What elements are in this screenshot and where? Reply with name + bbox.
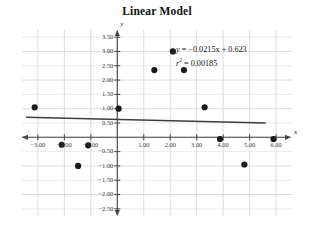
y-tick-label: 3.50 — [87, 33, 113, 40]
y-tick-label: −0.50 — [87, 147, 113, 154]
r-squared-line: r2 = 0.00185 — [176, 55, 247, 69]
y-tick-label: 3.00 — [87, 47, 113, 54]
equation-body: = −0.0215x + 0.623 — [180, 45, 247, 54]
linear-model-figure: Linear Model −3.00−2.00−1.001.002.003.00… — [0, 0, 314, 234]
x-tick-label: 4.00 — [209, 141, 237, 148]
x-tick-label: 2.00 — [156, 141, 184, 148]
equation-line: y = −0.0215x + 0.623 — [176, 44, 247, 55]
x-tick-label: −3.00 — [24, 141, 52, 148]
plot-area: −3.00−2.00−1.001.002.003.004.005.006.003… — [22, 30, 292, 216]
x-tick-label: −2.00 — [50, 141, 78, 148]
x-tick-label: 5.00 — [236, 141, 264, 148]
y-tick-label: 1.00 — [87, 104, 113, 111]
y-tick-label: 2.50 — [87, 62, 113, 69]
r-squared-body: = 0.00185 — [182, 59, 217, 68]
y-tick-label: 1.50 — [87, 90, 113, 97]
y-tick-label: −2.50 — [87, 205, 113, 212]
regression-equation: y = −0.0215x + 0.623 r2 = 0.00185 — [176, 44, 247, 69]
x-tick-label: 6.00 — [262, 141, 290, 148]
data-points — [22, 30, 292, 216]
x-axis-label: x — [294, 128, 297, 136]
x-tick-label: 1.00 — [130, 141, 158, 148]
x-tick-label: 3.00 — [183, 141, 211, 148]
y-tick-label: −1.50 — [87, 176, 113, 183]
y-axis-label: y — [120, 20, 123, 28]
page-title: Linear Model — [0, 5, 314, 17]
y-tick-label: −2.00 — [87, 190, 113, 197]
y-tick-label: −1.00 — [87, 162, 113, 169]
y-tick-label: 0.50 — [87, 119, 113, 126]
y-tick-label: 2.00 — [87, 76, 113, 83]
